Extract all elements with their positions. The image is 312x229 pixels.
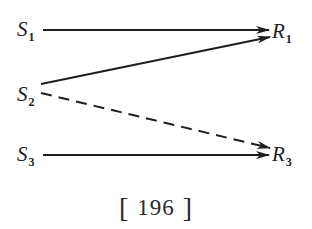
node-s2-symbol: S xyxy=(17,82,28,106)
stimulus-response-diagram: S1 S2 S3 R1 R3 [196] xyxy=(0,0,312,229)
figure-number-caption: [196] xyxy=(0,190,312,222)
right-bracket: ] xyxy=(183,192,193,223)
figure-number: 196 xyxy=(137,195,175,220)
node-s2: S2 xyxy=(17,84,35,105)
left-bracket: [ xyxy=(119,192,129,223)
node-r1: R1 xyxy=(272,21,292,42)
edge-s2-r3-dashed xyxy=(41,93,270,148)
node-s3-subscript: 3 xyxy=(29,155,35,169)
node-r3-symbol: R xyxy=(272,142,285,166)
node-s3: S3 xyxy=(17,144,35,165)
node-s1: S1 xyxy=(17,19,35,40)
node-r3: R3 xyxy=(272,144,292,165)
edge-s2-r1 xyxy=(41,37,270,84)
node-s2-subscript: 2 xyxy=(29,95,35,109)
node-s1-subscript: 1 xyxy=(29,30,35,44)
node-s1-symbol: S xyxy=(17,17,28,41)
node-r1-symbol: R xyxy=(272,19,285,43)
node-r3-subscript: 3 xyxy=(286,155,292,169)
node-r1-subscript: 1 xyxy=(286,32,292,46)
node-s3-symbol: S xyxy=(17,142,28,166)
